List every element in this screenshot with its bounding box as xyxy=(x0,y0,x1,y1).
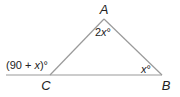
angle-a-deg: ° xyxy=(107,26,111,38)
ext-open: (90 + xyxy=(6,59,34,71)
vertex-label-b: B xyxy=(162,78,171,93)
angle-a-label: 2x° xyxy=(95,26,111,38)
vertex-label-c: C xyxy=(41,78,51,93)
triangle-diagram: A C B 2x° x° (90 + x)° xyxy=(0,0,180,97)
ext-close: )° xyxy=(40,59,48,71)
vertex-label-a: A xyxy=(99,2,109,17)
angle-b-deg: ° xyxy=(147,63,151,75)
angle-b-label: x° xyxy=(140,63,151,75)
side-ab xyxy=(104,19,162,75)
exterior-angle-c-label: (90 + x)° xyxy=(6,59,48,71)
